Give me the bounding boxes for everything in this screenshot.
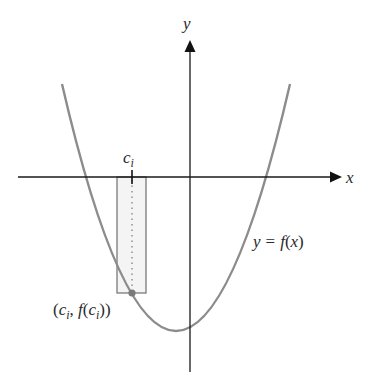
y-axis-arrow-icon [185,40,196,52]
diagram-canvas: x y ci y=f(x) (ci, f(ci)) [0,0,367,390]
x-axis-label: x [345,168,354,187]
x-axis-arrow-icon [330,172,342,183]
riemann-rectangle-diagram: x y ci y=f(x) (ci, f(ci)) [0,0,367,390]
sample-point-label: (ci, f(ci)) [53,300,111,322]
c-i-label: ci [123,148,134,170]
function-curve [62,84,290,331]
sample-point [128,289,135,296]
y-axis-label: y [181,14,191,33]
function-label: y=f(x) [251,232,304,251]
